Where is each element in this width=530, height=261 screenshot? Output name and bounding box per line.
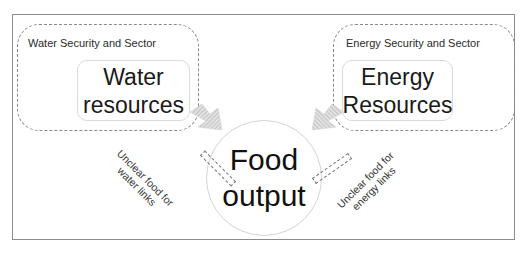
- food-output-line1: Food: [230, 142, 298, 178]
- water-resources-line2: resources: [83, 91, 184, 119]
- energy-resources-box: Energy Resources: [342, 60, 453, 121]
- energy-to-food-arrow-icon: [302, 100, 352, 140]
- water-resources-box: Water resources: [77, 60, 190, 121]
- water-resources-line1: Water: [103, 63, 164, 91]
- energy-resources-line2: Resources: [343, 91, 453, 119]
- water-sector-label: Water Security and Sector: [28, 37, 156, 49]
- food-output-line2: output: [222, 178, 305, 214]
- energy-resources-line1: Energy: [361, 63, 434, 91]
- energy-sector-label: Energy Security and Sector: [346, 37, 480, 49]
